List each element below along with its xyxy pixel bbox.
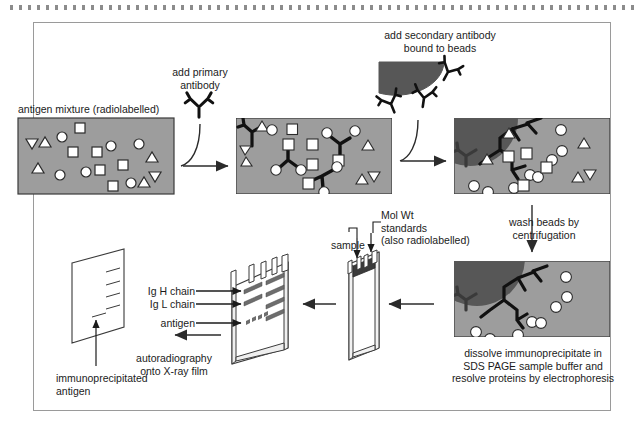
label-ig-h-chain: Ig H chain [141, 285, 195, 298]
dotted-rule-top [10, 5, 638, 10]
label-wash-beads: wash beads by centrifugation [483, 216, 605, 241]
label-immunoprecipitated-antigen: immunoprecipitated antigen [56, 372, 166, 397]
label-mol-wt-standards: Mol Wt standards (also radiolabelled) [381, 209, 501, 247]
label-add-primary-antibody: add primary antibody [150, 66, 250, 91]
label-sample: sample [331, 239, 365, 252]
label-ig-l-chain: Ig L chain [141, 298, 195, 311]
label-add-secondary-antibody: add secondary antibody bound to beads [358, 29, 522, 54]
label-antigen: antigen [141, 317, 195, 330]
label-dissolve-immunoprecipitate: dissolve immunoprecipitate in SDS PAGE s… [442, 347, 624, 385]
figure-canvas: antigen mixture (radiolabelled) [0, 0, 643, 433]
